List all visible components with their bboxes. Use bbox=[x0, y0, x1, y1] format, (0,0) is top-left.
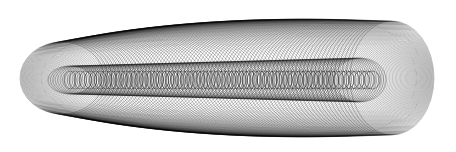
ellipse-stroke bbox=[166, 71, 179, 89]
elliptical-line-art bbox=[0, 0, 456, 152]
ellipse-stroke bbox=[318, 71, 333, 89]
ellipse-layers bbox=[20, 19, 434, 137]
ellipse-stroke bbox=[50, 66, 94, 94]
ellipse-stroke bbox=[60, 66, 104, 95]
